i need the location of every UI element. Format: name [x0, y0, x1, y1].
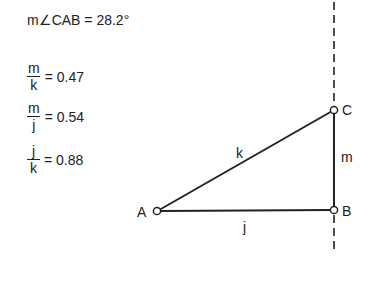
- label-segment-j: j: [242, 219, 246, 235]
- label-segment-m: m: [341, 149, 353, 165]
- segment-j[interactable]: [161, 210, 330, 211]
- point-a[interactable]: [153, 207, 160, 214]
- label-point-a: A: [137, 204, 147, 220]
- triangle-figure: A B C k j m: [0, 0, 375, 295]
- label-point-c: C: [342, 102, 352, 118]
- point-c[interactable]: [330, 106, 337, 113]
- label-point-b: B: [342, 203, 351, 219]
- segment-k[interactable]: [160, 112, 331, 210]
- point-b[interactable]: [330, 206, 337, 213]
- label-segment-k: k: [236, 145, 244, 161]
